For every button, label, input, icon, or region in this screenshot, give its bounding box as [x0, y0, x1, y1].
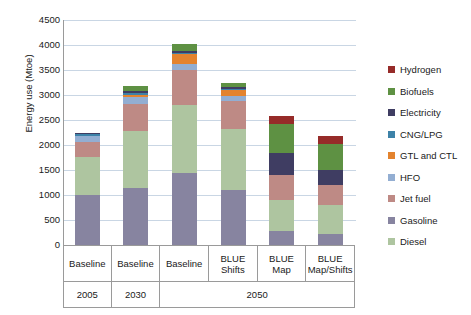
bar-segment-gtl-and-ctl: [172, 54, 197, 65]
bar-series-container: [63, 20, 355, 245]
legend-label: HFO: [400, 172, 420, 183]
legend-label: Biofuels: [400, 86, 434, 97]
legend-swatch-icon: [388, 174, 395, 181]
bar-segment-electricity: [318, 170, 343, 185]
y-tick-label-2000: 2000: [20, 140, 60, 150]
bar-segment-gasoline: [318, 234, 343, 246]
category-label-scenario: BLUEMap: [258, 246, 307, 281]
bar-column: [160, 20, 209, 245]
y-tick-label-500: 500: [20, 215, 60, 225]
bar-segment-jet-fuel: [269, 175, 294, 200]
legend-item[interactable]: GTL and CTL: [388, 145, 471, 167]
legend-label: Gasoline: [400, 215, 438, 226]
bar-segment-hydrogen: [269, 116, 294, 124]
legend-item[interactable]: Diesel: [388, 231, 471, 253]
stacked-bar[interactable]: [123, 86, 148, 246]
legend-swatch-icon: [388, 195, 395, 202]
y-tick-label-1500: 1500: [20, 165, 60, 175]
bar-segment-gasoline: [221, 190, 246, 245]
y-tick-label-1000: 1000: [20, 190, 60, 200]
y-tick-label-3500: 3500: [20, 65, 60, 75]
stacked-bar[interactable]: [221, 83, 246, 246]
category-label-year: 2005: [63, 282, 112, 307]
bar-segment-diesel: [221, 129, 246, 190]
legend-swatch-icon: [388, 66, 395, 73]
legend-label: Electricity: [400, 107, 441, 118]
legend-swatch-icon: [388, 217, 395, 224]
category-label-scenario: Baseline: [63, 246, 112, 281]
bar-segment-diesel: [269, 200, 294, 231]
legend-swatch-icon: [388, 109, 395, 116]
bar-column: [258, 20, 307, 245]
bar-segment-jet-fuel: [123, 104, 148, 132]
category-label-scenario: Baseline: [112, 246, 161, 281]
stacked-bar[interactable]: [318, 136, 343, 245]
energy-use-stacked-bar-chart: Energy use (Mtoe) 4500400035003000250020…: [0, 0, 471, 315]
legend-label: Hydrogen: [400, 64, 441, 75]
y-tick-label-4500: 4500: [20, 15, 60, 25]
legend-swatch-icon: [388, 238, 395, 245]
bar-segment-gasoline: [75, 195, 100, 245]
bar-column: [63, 20, 112, 245]
legend-item[interactable]: CNG/LPG: [388, 124, 471, 146]
category-label-year: 2030: [112, 282, 161, 307]
bar-segment-jet-fuel: [75, 142, 100, 157]
legend-label: Jet fuel: [400, 193, 431, 204]
legend-label: Diesel: [400, 236, 426, 247]
bar-column: [112, 20, 161, 245]
bar-segment-diesel: [123, 131, 148, 188]
category-label-scenario: BLUEMap/Shifts: [306, 246, 355, 281]
y-axis-tick-labels: 450040003500300025002000150010005000: [16, 20, 60, 246]
legend-item[interactable]: HFO: [388, 167, 471, 189]
category-axis-years: 200520302050: [63, 282, 355, 308]
legend-item[interactable]: Jet fuel: [388, 188, 471, 210]
bar-segment-hydrogen: [318, 136, 343, 144]
y-tick-label-2500: 2500: [20, 115, 60, 125]
category-axis-scenarios: BaselineBaselineBaselineBLUEShiftsBLUEMa…: [63, 246, 355, 282]
bar-segment-jet-fuel: [318, 185, 343, 205]
stacked-bar[interactable]: [269, 116, 294, 245]
bar-segment-jet-fuel: [172, 70, 197, 105]
bar-segment-biofuels: [269, 124, 294, 153]
bar-column: [306, 20, 355, 245]
y-tick-label-0: 0: [20, 240, 60, 250]
y-tick-label-3000: 3000: [20, 90, 60, 100]
category-label-year: 2050: [160, 282, 355, 307]
bar-segment-diesel: [172, 105, 197, 173]
legend-item[interactable]: Electricity: [388, 102, 471, 124]
bar-segment-biofuels: [318, 144, 343, 171]
chart-legend: HydrogenBiofuelsElectricityCNG/LPGGTL an…: [388, 59, 471, 253]
legend-swatch-icon: [388, 152, 395, 159]
legend-swatch-icon: [388, 88, 395, 95]
category-label-scenario: BLUEShifts: [209, 246, 258, 281]
bar-segment-gasoline: [172, 173, 197, 246]
category-label-scenario: Baseline: [160, 246, 209, 281]
stacked-bar[interactable]: [75, 133, 100, 245]
legend-item[interactable]: Hydrogen: [388, 59, 471, 81]
bar-segment-diesel: [318, 205, 343, 234]
bar-segment-gasoline: [123, 188, 148, 246]
y-tick-label-4000: 4000: [20, 40, 60, 50]
legend-swatch-icon: [388, 131, 395, 138]
legend-item[interactable]: Gasoline: [388, 210, 471, 232]
legend-item[interactable]: Biofuels: [388, 81, 471, 103]
bar-segment-gasoline: [269, 231, 294, 246]
bar-segment-electricity: [269, 153, 294, 176]
bar-segment-jet-fuel: [221, 101, 246, 129]
bar-column: [209, 20, 258, 245]
bar-segment-diesel: [75, 157, 100, 195]
stacked-bar[interactable]: [172, 44, 197, 245]
legend-label: CNG/LPG: [400, 129, 443, 140]
legend-label: GTL and CTL: [400, 150, 457, 161]
